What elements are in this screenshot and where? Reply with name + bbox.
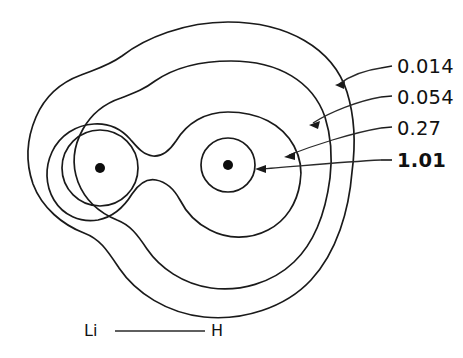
arrowhead-0014 bbox=[335, 81, 345, 89]
atom-label-li: Li bbox=[84, 321, 97, 340]
contour-label-101: 1.01 bbox=[397, 149, 446, 172]
leader-line-027 bbox=[289, 128, 381, 155]
contour-path-0014 bbox=[28, 22, 354, 318]
leader-line-0014 bbox=[339, 68, 381, 84]
contour-label-0014: 0.014 bbox=[397, 55, 454, 78]
atom-label-h: H bbox=[211, 321, 223, 340]
leader-line-0054 bbox=[313, 97, 381, 123]
contour-path-027 bbox=[47, 112, 301, 237]
label-dash-0014 bbox=[381, 66, 392, 68]
leader-line-101 bbox=[260, 160, 381, 169]
label-dash-0054 bbox=[381, 96, 392, 97]
nucleus-li bbox=[95, 163, 105, 173]
arrowhead-101 bbox=[255, 165, 266, 173]
contour-label-027: 0.27 bbox=[397, 117, 441, 140]
nucleus-h bbox=[223, 160, 233, 170]
label-dash-027 bbox=[381, 127, 392, 128]
contour-figure: 0.014 0.054 0.27 1.01 Li H bbox=[0, 0, 463, 358]
arrowhead-027 bbox=[284, 152, 295, 160]
contour-plot: 0.014 0.054 0.27 1.01 Li H bbox=[0, 0, 463, 358]
contour-label-0054: 0.054 bbox=[397, 86, 454, 109]
